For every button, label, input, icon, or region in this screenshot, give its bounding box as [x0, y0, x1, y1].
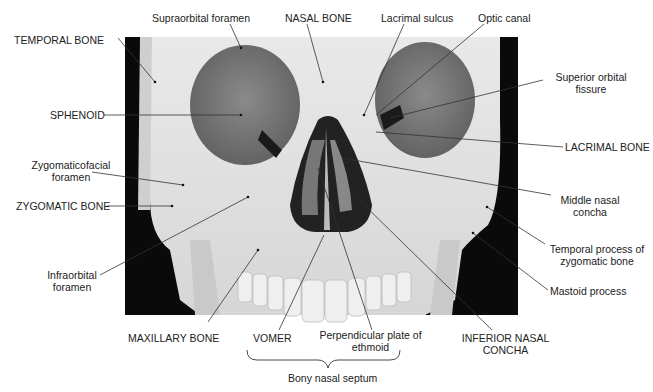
label-nasal-bone: NASAL BONE — [285, 12, 352, 24]
skull-anterior-diagram: Supraorbital foramen NASAL BONE Lacrimal… — [0, 0, 653, 392]
label-maxillary-bone: MAXILLARY BONE — [128, 332, 219, 344]
label-mastoid-process: Mastoid process — [550, 285, 626, 297]
label-lacrimal-sulcus: Lacrimal sulcus — [381, 12, 453, 24]
label-temporal-process-of-zygomatic-bone: Temporal process of zygomatic bone — [542, 243, 652, 267]
label-zygomatic-bone: ZYGOMATIC BONE — [16, 200, 110, 212]
label-superior-orbital-fissure: Superior orbital fissure — [546, 71, 636, 95]
label-lacrimal-bone: LACRIMAL BONE — [565, 141, 650, 153]
label-bony-nasal-septum: Bony nasal septum — [288, 372, 373, 384]
label-infraorbital-foramen: Infraorbital foramen — [42, 269, 102, 293]
label-sphenoid: SPHENOID — [50, 109, 105, 121]
label-perpendicular-plate-of-ethmoid: Perpendicular plate of ethmoid — [313, 329, 428, 353]
label-middle-nasal-concha: Middle nasal concha — [545, 194, 635, 218]
label-optic-canal: Optic canal — [478, 12, 531, 24]
label-zygomaticofacial-foramen: Zygomaticofacial foramen — [26, 159, 116, 183]
label-temporal-bone: TEMPORAL BONE — [14, 34, 104, 46]
label-vomer: VOMER — [253, 332, 292, 344]
label-inferior-nasal-concha: INFERIOR NASAL CONCHA — [458, 332, 553, 356]
label-supraorbital-foramen: Supraorbital foramen — [152, 12, 250, 24]
